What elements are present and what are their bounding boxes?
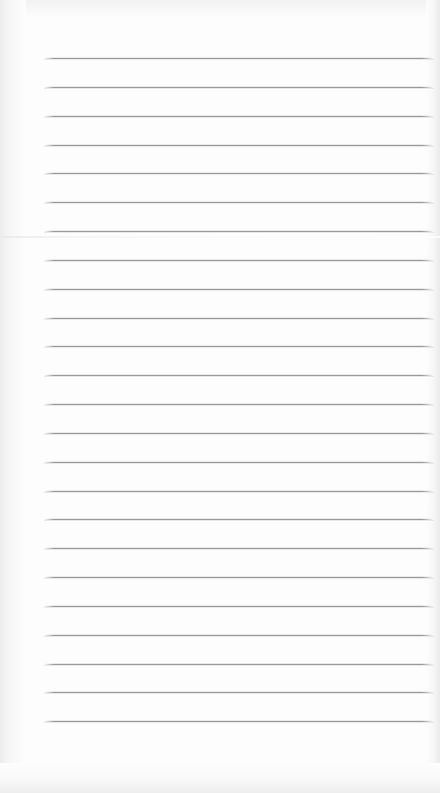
rule-line-fade-right — [422, 490, 434, 493]
rule-line-fade-left — [44, 576, 54, 579]
rule-line-fade-left — [44, 432, 54, 435]
rule-line-fade-left — [44, 720, 54, 723]
rule-line — [44, 116, 434, 117]
rule-line-fade-right — [422, 634, 434, 637]
rule-line — [44, 173, 434, 174]
rule-line — [44, 692, 434, 693]
rule-line-fade-left — [44, 172, 54, 175]
rule-line-fade-left — [44, 288, 54, 291]
rule-line-fade-right — [422, 317, 434, 320]
rule-line — [44, 145, 434, 146]
rule-line — [44, 664, 434, 665]
rule-line — [44, 721, 434, 722]
rule-line-fade-left — [44, 547, 54, 550]
rule-line — [44, 433, 434, 434]
rule-line-fade-right — [422, 115, 434, 118]
rule-line-fade-left — [44, 403, 54, 406]
rule-line — [44, 231, 434, 232]
rule-line-fade-right — [422, 259, 434, 262]
rule-line-fade-right — [422, 86, 434, 89]
rule-line — [44, 375, 434, 376]
rule-line-fade-left — [44, 57, 54, 60]
ruled-lines-group — [0, 0, 440, 793]
notebook-page — [0, 0, 440, 793]
rule-line-fade-right — [422, 172, 434, 175]
rule-line-fade-left — [44, 144, 54, 147]
rule-line — [44, 346, 434, 347]
rule-line-fade-left — [44, 663, 54, 666]
rule-line-fade-right — [422, 57, 434, 60]
rule-line-fade-right — [422, 576, 434, 579]
rule-line — [44, 606, 434, 607]
rule-line-fade-right — [422, 663, 434, 666]
rule-line-fade-left — [44, 605, 54, 608]
rule-line-fade-left — [44, 115, 54, 118]
rule-line — [44, 260, 434, 261]
rule-line — [44, 87, 434, 88]
rule-line-fade-left — [44, 86, 54, 89]
rule-line-fade-left — [44, 461, 54, 464]
rule-line-fade-right — [422, 691, 434, 694]
rule-line-fade-right — [422, 345, 434, 348]
rule-line-fade-right — [422, 403, 434, 406]
rule-line-fade-left — [44, 691, 54, 694]
rule-line — [44, 289, 434, 290]
rule-line — [44, 462, 434, 463]
rule-line-fade-right — [422, 288, 434, 291]
rule-line-fade-left — [44, 634, 54, 637]
rule-line-fade-left — [44, 345, 54, 348]
rule-line — [44, 519, 434, 520]
rule-line — [44, 202, 434, 203]
rule-line-fade-right — [422, 605, 434, 608]
rule-line — [44, 404, 434, 405]
rule-line-fade-left — [44, 201, 54, 204]
rule-line-fade-right — [422, 230, 434, 233]
rule-line-fade-left — [44, 518, 54, 521]
rule-line-fade-left — [44, 317, 54, 320]
rule-line — [44, 548, 434, 549]
rule-line-fade-right — [422, 720, 434, 723]
rule-line-fade-right — [422, 547, 434, 550]
rule-line-fade-right — [422, 432, 434, 435]
rule-line — [44, 491, 434, 492]
rule-line-fade-right — [422, 461, 434, 464]
rule-line — [44, 58, 434, 59]
rule-line-fade-right — [422, 374, 434, 377]
rule-line-fade-left — [44, 374, 54, 377]
rule-line — [44, 635, 434, 636]
rule-line-fade-right — [422, 144, 434, 147]
rule-line-fade-left — [44, 259, 54, 262]
rule-line-fade-right — [422, 518, 434, 521]
rule-line — [44, 318, 434, 319]
rule-line-fade-left — [44, 230, 54, 233]
rule-line — [44, 577, 434, 578]
rule-line-fade-right — [422, 201, 434, 204]
rule-line-fade-left — [44, 490, 54, 493]
